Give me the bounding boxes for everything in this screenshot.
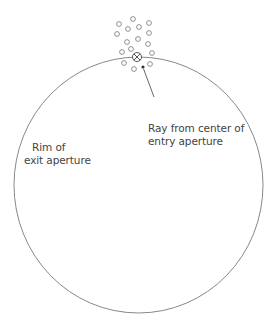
rim-label-line1: Rim of <box>32 141 65 154</box>
ray-point-dot <box>141 65 144 68</box>
scatter-point <box>147 21 152 26</box>
diagram-canvas: Rim of exit aperture Ray from center of … <box>0 0 272 329</box>
scatter-point <box>147 31 152 36</box>
ray-label-line1: Ray from center of <box>148 122 244 135</box>
exit-aperture-rim <box>14 57 263 313</box>
scatter-point <box>126 27 131 32</box>
scatter-point <box>136 37 141 42</box>
scatter-point <box>148 62 153 67</box>
scatter-point <box>125 40 130 45</box>
scatter-point <box>120 50 125 55</box>
scatter-point <box>131 17 136 22</box>
scatter-point <box>122 61 127 66</box>
rim-label-line2: exit aperture <box>24 154 91 167</box>
scatter-point <box>146 42 151 47</box>
ray-label-line2: entry aperture <box>148 135 223 148</box>
scatter-point <box>117 22 122 27</box>
entry-center-marker-icon <box>133 53 142 62</box>
scatter-point <box>150 51 155 56</box>
scatter-points <box>115 17 155 72</box>
ray-leader-line <box>144 69 154 97</box>
scatter-point <box>137 25 142 30</box>
scatter-point <box>115 32 120 37</box>
scatter-point <box>129 47 134 52</box>
scatter-point <box>132 67 137 72</box>
